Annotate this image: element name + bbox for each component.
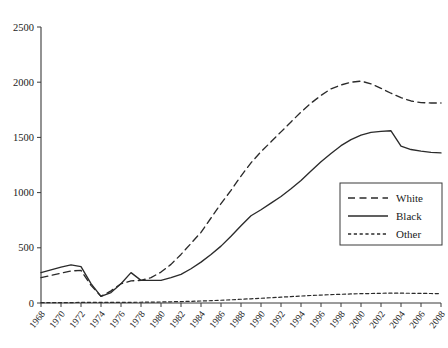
legend-label-white: White xyxy=(396,192,423,204)
chart-legend: WhiteBlackOther xyxy=(340,183,442,245)
x-tick-label: 1994 xyxy=(287,309,307,330)
x-tick-label: 1970 xyxy=(47,309,67,330)
series-line-other xyxy=(41,293,441,303)
x-tick-label: 1974 xyxy=(87,309,107,330)
x-tick-label: 1972 xyxy=(67,309,87,330)
x-tick-label: 1992 xyxy=(267,309,287,330)
x-tick-label: 2000 xyxy=(347,309,367,330)
legend-label-other: Other xyxy=(396,228,421,240)
x-tick-label: 1988 xyxy=(227,309,247,330)
x-tick-label: 1980 xyxy=(147,309,167,330)
x-axis-group: 1968197019721974197619781980198219841986… xyxy=(27,303,447,330)
x-tick-label: 1978 xyxy=(127,309,147,330)
x-tick-label: 1982 xyxy=(167,309,187,330)
x-tick-label: 2008 xyxy=(427,309,447,330)
y-tick-labels: 05001000150020002500 xyxy=(13,22,34,309)
y-tick-label: 500 xyxy=(18,242,34,253)
legend-border xyxy=(340,183,442,245)
y-tick-label: 1000 xyxy=(13,187,34,198)
y-tick-label: 2000 xyxy=(13,77,34,88)
line-chart: 05001000150020002500 1968197019721974197… xyxy=(0,0,448,348)
y-tick-label: 2500 xyxy=(13,22,34,33)
x-tick-label: 1990 xyxy=(247,309,267,330)
x-tick-label: 2006 xyxy=(407,309,427,330)
x-tick-label: 1968 xyxy=(27,309,47,330)
legend-label-black: Black xyxy=(396,210,422,222)
x-tick-label: 1996 xyxy=(307,309,327,330)
x-tick-label: 1984 xyxy=(187,309,207,330)
y-axis-group: 05001000150020002500 xyxy=(13,22,41,309)
x-tick-label: 1976 xyxy=(107,309,127,330)
x-tick-label: 2004 xyxy=(387,309,407,330)
x-tick-label: 2002 xyxy=(367,309,387,330)
x-tick-marks xyxy=(41,303,441,307)
y-tick-label: 0 xyxy=(29,298,34,309)
chart-container: 05001000150020002500 1968197019721974197… xyxy=(0,0,448,348)
y-tick-label: 1500 xyxy=(13,132,34,143)
x-tick-label: 1998 xyxy=(327,309,347,330)
y-tick-marks xyxy=(37,27,41,303)
x-tick-labels: 1968197019721974197619781980198219841986… xyxy=(27,309,447,330)
x-tick-label: 1986 xyxy=(207,309,227,330)
